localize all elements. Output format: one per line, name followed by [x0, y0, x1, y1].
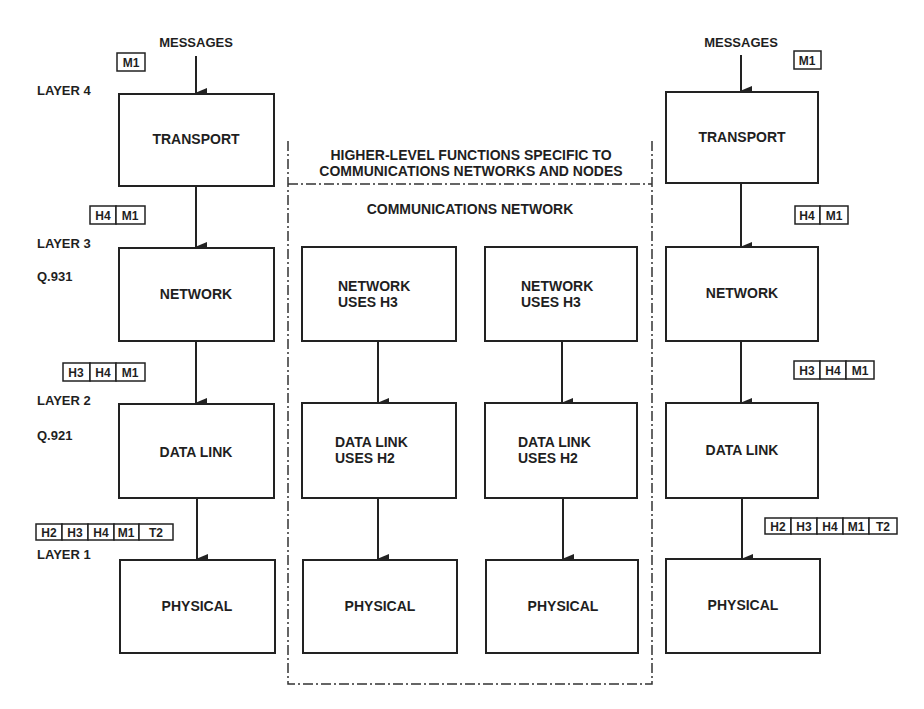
svg-text:PHYSICAL: PHYSICAL: [345, 598, 416, 614]
layer-3-label: LAYER 3: [37, 236, 91, 251]
svg-text:H2: H2: [41, 526, 57, 540]
right-messages-label: MESSAGES: [704, 35, 778, 50]
svg-text:PHYSICAL: PHYSICAL: [528, 598, 599, 614]
svg-text:H4: H4: [93, 526, 109, 540]
middle-title-line1: HIGHER-LEVEL FUNCTIONS SPECIFIC TO: [330, 147, 611, 163]
svg-text:H3: H3: [799, 364, 815, 378]
svg-text:NETWORK: NETWORK: [521, 278, 593, 294]
right-header-tag-l2: H3 H4 M1: [794, 361, 874, 379]
svg-text:NETWORK: NETWORK: [338, 278, 410, 294]
network-label: NETWORK: [160, 286, 232, 302]
left-stack: MESSAGES M1 LAYER 4 TRANSPORT H4 M1 LAYE…: [36, 35, 275, 653]
right-header-tag-l3: H4 M1: [795, 206, 848, 224]
data-link-label: DATA LINK: [160, 444, 233, 460]
svg-text:M1: M1: [826, 209, 843, 223]
layer-3-protocol: Q.931: [37, 269, 72, 284]
left-header-tag-l2: H3 H4 M1: [63, 363, 145, 381]
right-header-tag-l4: M1: [794, 51, 821, 69]
svg-text:H3: H3: [68, 366, 84, 380]
right-stack: MESSAGES M1 TRANSPORT H4 M1 NETWORK H3 H…: [666, 35, 897, 653]
communications-network-region: HIGHER-LEVEL FUNCTIONS SPECIFIC TO COMMU…: [288, 141, 652, 684]
svg-text:H4: H4: [825, 364, 841, 378]
svg-text:H4: H4: [822, 520, 838, 534]
left-messages-label: MESSAGES: [159, 35, 233, 50]
svg-text:M1: M1: [799, 54, 816, 68]
svg-text:USES H2: USES H2: [335, 450, 395, 466]
left-header-tag-l3: H4 M1: [90, 206, 145, 224]
svg-text:DATA LINK: DATA LINK: [335, 434, 408, 450]
svg-text:USES H3: USES H3: [338, 294, 398, 310]
svg-text:M1: M1: [118, 526, 135, 540]
svg-text:H3: H3: [796, 520, 812, 534]
svg-text:M1: M1: [852, 364, 869, 378]
svg-text:DATA LINK: DATA LINK: [518, 434, 591, 450]
right-header-tag-l1: H2 H3 H4 M1 T2: [765, 518, 897, 534]
svg-text:TRANSPORT: TRANSPORT: [698, 129, 786, 145]
network-node-1: NETWORK USES H3 DATA LINK USES H2 PHYSIC…: [302, 247, 457, 653]
svg-text:NETWORK: NETWORK: [706, 285, 778, 301]
svg-text:USES H2: USES H2: [518, 450, 578, 466]
svg-text:USES H3: USES H3: [521, 294, 581, 310]
physical-label: PHYSICAL: [162, 598, 233, 614]
left-header-tag-l4: M1: [117, 53, 145, 71]
svg-text:H3: H3: [67, 526, 83, 540]
svg-text:PHYSICAL: PHYSICAL: [708, 597, 779, 613]
layer-2-protocol: Q.921: [37, 428, 72, 443]
svg-text:H2: H2: [770, 520, 786, 534]
svg-text:M1: M1: [848, 520, 865, 534]
svg-text:H4: H4: [95, 209, 111, 223]
layer-4-label: LAYER 4: [37, 83, 91, 98]
svg-text:T2: T2: [149, 526, 163, 540]
svg-text:H4: H4: [799, 209, 815, 223]
communications-network-label: COMMUNICATIONS NETWORK: [367, 201, 574, 217]
svg-text:M1: M1: [122, 209, 139, 223]
layer-1-label: LAYER 1: [37, 547, 91, 562]
svg-text:M1: M1: [122, 366, 139, 380]
svg-text:H4: H4: [95, 366, 111, 380]
svg-text:DATA LINK: DATA LINK: [706, 442, 779, 458]
left-header-tag-l1: H2 H3 H4 M1 T2: [36, 524, 173, 540]
transport-label: TRANSPORT: [152, 131, 240, 147]
svg-text:M1: M1: [123, 56, 140, 70]
middle-title-line2: COMMUNICATIONS NETWORKS AND NODES: [319, 163, 622, 179]
osi-layer-diagram: MESSAGES M1 LAYER 4 TRANSPORT H4 M1 LAYE…: [0, 0, 924, 709]
svg-text:T2: T2: [876, 520, 890, 534]
layer-2-label: LAYER 2: [37, 393, 91, 408]
network-node-2: NETWORK USES H3 DATA LINK USES H2 PHYSIC…: [485, 247, 638, 653]
